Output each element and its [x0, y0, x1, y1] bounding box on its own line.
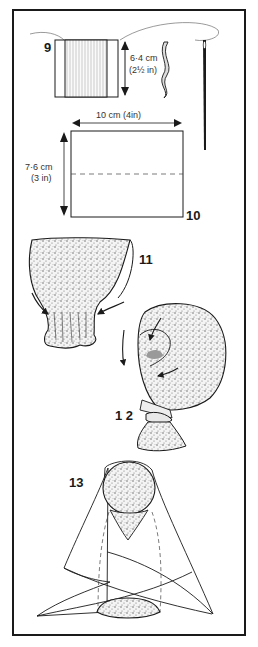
step-number-9: 9 — [44, 40, 51, 55]
spool-height-cm: 6·4 cm — [130, 53, 158, 64]
step-10-rectangle-group — [60, 119, 183, 217]
step-number-12: 1 2 — [115, 408, 133, 423]
spool-height-in: (2½ in) — [129, 65, 157, 76]
step-number-11: 11 — [139, 252, 153, 267]
step-13-wrapped-figure — [37, 461, 213, 618]
rectangle-height-cm: 7·6 cm — [25, 162, 53, 173]
rectangle-height-in: (3 in) — [31, 173, 52, 184]
step-number-10: 10 — [186, 208, 200, 223]
step-11-gathered-fabric — [29, 238, 133, 348]
step-12-tied-head — [123, 304, 226, 451]
craft-instructions-art — [0, 0, 258, 647]
step-number-13: 13 — [69, 475, 83, 490]
rectangle-width-label: 10 cm (4in) — [96, 110, 141, 121]
